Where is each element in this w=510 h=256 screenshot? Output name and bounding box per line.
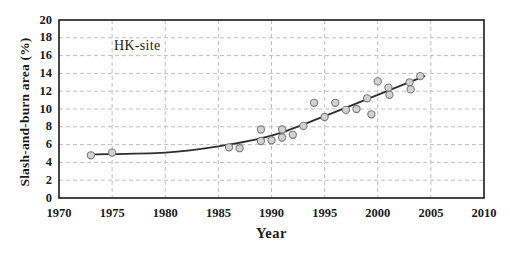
- data-point: [268, 137, 275, 144]
- y-tick-label: 14: [2, 66, 52, 81]
- data-point: [368, 111, 375, 118]
- data-point: [321, 113, 328, 120]
- data-point: [342, 106, 349, 113]
- data-point: [353, 105, 360, 112]
- site-label: HK-site: [114, 38, 160, 54]
- data-point: [406, 79, 413, 86]
- data-point: [236, 145, 243, 152]
- y-tick-label: 2: [2, 173, 52, 188]
- data-point: [87, 152, 94, 159]
- y-tick-label: 0: [2, 191, 52, 206]
- data-point: [386, 91, 393, 98]
- x-tick-label: 1975: [90, 206, 134, 221]
- x-tick-label: 1985: [196, 206, 240, 221]
- data-point: [279, 126, 286, 133]
- y-tick-label: 20: [2, 13, 52, 28]
- data-point: [109, 149, 116, 156]
- data-point: [289, 131, 296, 138]
- y-tick-label: 10: [2, 102, 52, 117]
- x-tick-label: 1980: [143, 206, 187, 221]
- data-point: [417, 73, 424, 80]
- data-point: [407, 86, 414, 93]
- y-tick-label: 8: [2, 119, 52, 134]
- y-tick-label: 4: [2, 155, 52, 170]
- data-point: [385, 84, 392, 91]
- x-tick-label: 2000: [356, 206, 400, 221]
- data-point: [300, 122, 307, 129]
- x-tick-label: 1995: [303, 206, 347, 221]
- y-tick-label: 12: [2, 84, 52, 99]
- y-tick-label: 18: [2, 30, 52, 45]
- data-point: [225, 144, 232, 151]
- data-point: [374, 78, 381, 85]
- data-point: [279, 134, 286, 141]
- data-point: [364, 95, 371, 102]
- data-point: [257, 126, 264, 133]
- y-tick-label: 16: [2, 48, 52, 63]
- data-point: [257, 137, 264, 144]
- x-tick-label: 1990: [250, 206, 294, 221]
- data-point: [310, 99, 317, 106]
- x-tick-label: 1970: [37, 206, 81, 221]
- y-tick-label: 6: [2, 137, 52, 152]
- x-axis-title: Year: [59, 225, 484, 242]
- x-tick-label: 2005: [409, 206, 453, 221]
- chart-canvas: Slash-and-burn area (%) HK-site Year 024…: [0, 0, 510, 256]
- data-point: [332, 99, 339, 106]
- x-tick-label: 2010: [462, 206, 506, 221]
